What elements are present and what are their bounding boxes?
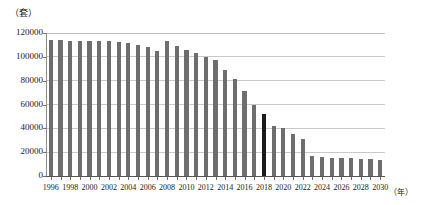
x-axis-tick-mark	[274, 177, 275, 180]
x-axis-tick-mark	[312, 177, 313, 180]
x-axis-tick-mark	[332, 177, 333, 180]
x-axis-tick-label: 2004	[120, 183, 136, 192]
x-axis-tick-mark	[80, 177, 81, 180]
x-axis-tick-mark	[177, 177, 178, 180]
x-axis-tick-mark	[206, 177, 207, 180]
x-axis-tick-mark	[293, 177, 294, 180]
bar	[136, 45, 140, 176]
bar	[339, 158, 343, 176]
gridline	[46, 33, 385, 34]
x-axis-tick-mark	[361, 177, 362, 180]
x-axis-tick-mark	[70, 177, 71, 180]
y-axis-tick-label: 20000	[0, 146, 43, 156]
bar	[368, 159, 372, 176]
x-axis-tick-mark	[283, 177, 284, 180]
bar	[213, 60, 217, 176]
x-axis-tick-mark	[341, 177, 342, 180]
bar	[58, 40, 62, 176]
bar	[320, 157, 324, 176]
bar	[262, 114, 266, 176]
bar	[330, 158, 334, 176]
bar	[184, 50, 188, 176]
x-axis-tick-label: 2018	[256, 183, 272, 192]
x-axis-tick-label: 2024	[314, 183, 330, 192]
bar	[291, 134, 295, 176]
bar	[281, 128, 285, 176]
x-axis-tick-mark	[303, 177, 304, 180]
bar	[301, 139, 305, 176]
y-axis-tick-mark	[43, 57, 46, 58]
x-axis-tick-label: 2006	[140, 183, 156, 192]
bar	[349, 158, 353, 176]
x-axis-tick-mark	[196, 177, 197, 180]
x-axis-tick-mark	[138, 177, 139, 180]
x-axis-tick-label: 2026	[333, 183, 349, 192]
bar	[126, 43, 130, 176]
bar	[175, 46, 179, 176]
x-axis-tick-mark	[109, 177, 110, 180]
x-axis-tick-mark	[128, 177, 129, 180]
y-axis-unit-label: （套）	[10, 6, 37, 19]
x-axis-tick-mark	[370, 177, 371, 180]
plot-area	[46, 33, 385, 176]
bar	[252, 105, 256, 177]
bar	[223, 70, 227, 176]
x-axis-tick-label: 1996	[43, 183, 59, 192]
bar	[97, 41, 101, 176]
y-axis-tick-mark	[43, 176, 46, 177]
bar-chart-figure: （套） （年） 02000040000600008000010000012000…	[0, 0, 421, 205]
bar	[272, 126, 276, 176]
y-axis-tick-label: 60000	[0, 99, 43, 109]
y-axis-tick-label: 100000	[0, 51, 43, 61]
y-axis-tick-mark	[43, 81, 46, 82]
x-axis-tick-mark	[254, 177, 255, 180]
bar	[378, 160, 382, 176]
x-axis-unit-label: （年）	[389, 186, 413, 197]
x-axis-tick-mark	[351, 177, 352, 180]
x-axis-tick-label: 1998	[62, 183, 78, 192]
bar	[242, 91, 246, 176]
x-axis-tick-mark	[216, 177, 217, 180]
y-axis-tick-mark	[43, 105, 46, 106]
x-axis-tick-mark	[61, 177, 62, 180]
x-axis-tick-label: 2028	[353, 183, 369, 192]
y-axis-line	[46, 33, 47, 177]
y-axis-tick-mark	[43, 152, 46, 153]
bar	[233, 79, 237, 176]
x-axis-tick-mark	[186, 177, 187, 180]
x-axis-tick-label: 2008	[159, 183, 175, 192]
bar	[359, 159, 363, 176]
x-axis-tick-mark	[99, 177, 100, 180]
bar	[107, 41, 111, 176]
x-axis-tick-mark	[51, 177, 52, 180]
y-axis-tick-label: 0	[0, 170, 43, 180]
x-axis-tick-label: 2022	[295, 183, 311, 192]
x-axis-tick-label: 2010	[178, 183, 194, 192]
y-axis-tick-label: 40000	[0, 122, 43, 132]
bar	[204, 57, 208, 176]
bar	[49, 40, 53, 176]
bar	[194, 53, 198, 176]
x-axis-tick-label: 2030	[372, 183, 388, 192]
x-axis-tick-mark	[148, 177, 149, 180]
x-axis-tick-mark	[235, 177, 236, 180]
bar	[78, 41, 82, 176]
x-axis-tick-mark	[119, 177, 120, 180]
x-axis-tick-label: 2016	[237, 183, 253, 192]
x-axis-tick-mark	[245, 177, 246, 180]
y-axis-tick-label: 120000	[0, 27, 43, 37]
x-axis-tick-mark	[380, 177, 381, 180]
x-axis-tick-mark	[322, 177, 323, 180]
x-axis-tick-mark	[264, 177, 265, 180]
x-axis-tick-mark	[90, 177, 91, 180]
x-axis-tick-label: 2000	[82, 183, 98, 192]
x-axis-tick-label: 2012	[198, 183, 214, 192]
bar	[155, 51, 159, 176]
y-axis-tick-label: 80000	[0, 75, 43, 85]
bar	[117, 42, 121, 176]
bar	[310, 156, 314, 176]
x-axis-tick-mark	[225, 177, 226, 180]
bar	[68, 41, 72, 176]
x-axis-tick-label: 2020	[275, 183, 291, 192]
y-axis-tick-mark	[43, 33, 46, 34]
